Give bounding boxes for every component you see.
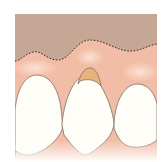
dental-recession-illustration [0, 0, 168, 162]
illustration-canvas [0, 0, 168, 162]
